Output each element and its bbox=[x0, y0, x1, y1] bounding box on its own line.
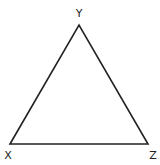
vertex-label-y: Y bbox=[75, 7, 83, 20]
vertex-label-x: X bbox=[4, 149, 12, 162]
vertex-label-z: Z bbox=[149, 149, 157, 162]
triangle-xyz bbox=[10, 25, 148, 144]
triangle-diagram: Y X Z bbox=[0, 0, 160, 165]
